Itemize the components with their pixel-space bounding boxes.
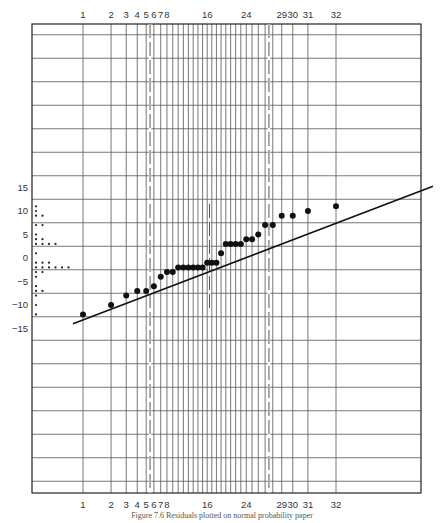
dot (35, 233, 37, 235)
dot (35, 252, 37, 254)
dot (54, 266, 56, 268)
x-tick-bottom: 4 (135, 499, 140, 510)
dot (35, 271, 37, 273)
data-point (218, 250, 224, 256)
dot (41, 290, 43, 292)
data-point (143, 288, 149, 294)
data-point (333, 203, 339, 209)
normal-probability-plot: 1122334455667788161624242929303031313232… (0, 0, 443, 523)
dot (61, 266, 63, 268)
data-point (249, 236, 255, 242)
dot (35, 243, 37, 245)
x-tick-top: 32 (331, 9, 342, 20)
x-tick-top: 1 (80, 9, 85, 20)
dot (41, 238, 43, 240)
dot (35, 238, 37, 240)
data-point (305, 208, 311, 214)
dot (35, 262, 37, 264)
data-point (262, 222, 268, 228)
dot (35, 304, 37, 306)
x-tick-bottom: 32 (331, 499, 342, 510)
x-tick-bottom: 24 (241, 499, 252, 510)
data-point (158, 274, 164, 280)
x-tick-bottom: 29 (276, 499, 287, 510)
x-tick-bottom: 30 (287, 499, 298, 510)
y-tick: 10 (17, 205, 28, 216)
data-point (243, 236, 249, 242)
data-point (123, 293, 129, 299)
dot (41, 215, 43, 217)
x-tick-bottom: 16 (202, 499, 213, 510)
fitted-line (73, 186, 433, 324)
data-point (255, 232, 261, 238)
data-point (151, 283, 157, 289)
x-tick-top: 24 (241, 9, 252, 20)
y-tick: 0 (23, 252, 28, 263)
x-tick-bottom: 6 (151, 499, 156, 510)
x-tick-bottom: 31 (303, 499, 314, 510)
data-point (175, 264, 181, 270)
dot (41, 262, 43, 264)
y-tick: −10 (12, 299, 28, 310)
data-point (134, 288, 140, 294)
data-point (238, 241, 244, 247)
y-tick: −5 (17, 276, 28, 287)
x-tick-top: 16 (202, 9, 213, 20)
dot (35, 205, 37, 207)
dot (41, 271, 43, 273)
x-tick-top: 30 (287, 9, 298, 20)
y-tick: 5 (23, 229, 28, 240)
dot-diagram (35, 205, 70, 315)
y-tick: 15 (17, 182, 28, 193)
data-point (108, 302, 114, 308)
x-tick-top: 7 (158, 9, 163, 20)
x-tick-bottom: 5 (144, 499, 149, 510)
dot (67, 266, 69, 268)
x-tick-top: 6 (151, 9, 156, 20)
dot (54, 243, 56, 245)
dot (48, 243, 50, 245)
x-tick-top: 8 (164, 9, 169, 20)
x-tick-bottom: 7 (158, 499, 163, 510)
data-point (213, 260, 219, 266)
dot (35, 313, 37, 315)
x-tick-bottom: 2 (108, 499, 113, 510)
x-tick-top: 2 (108, 9, 113, 20)
data-point (233, 241, 239, 247)
x-tick-top: 5 (144, 9, 149, 20)
dot (35, 285, 37, 287)
x-tick-bottom: 3 (124, 499, 129, 510)
dot (41, 243, 43, 245)
data-point (200, 264, 206, 270)
y-tick-labels: 151050−5−10−15 (12, 182, 28, 334)
data-point (164, 269, 170, 275)
data-point (270, 222, 276, 228)
x-tick-labels: 1122334455667788161624242929303031313232 (80, 9, 341, 510)
dot (41, 224, 43, 226)
dot (35, 290, 37, 292)
dot (35, 266, 37, 268)
dot (35, 295, 37, 297)
data-point (80, 311, 86, 317)
dot (35, 215, 37, 217)
dot (48, 266, 50, 268)
y-tick: −15 (12, 323, 28, 334)
data-point (170, 269, 176, 275)
x-tick-top: 29 (276, 9, 287, 20)
x-tick-bottom: 8 (164, 499, 169, 510)
dot (35, 276, 37, 278)
x-tick-top: 3 (124, 9, 129, 20)
x-tick-top: 4 (135, 9, 140, 20)
dot (48, 262, 50, 264)
plot-frame (32, 24, 421, 493)
x-tick-top: 31 (303, 9, 314, 20)
dot (35, 224, 37, 226)
data-point (290, 213, 296, 219)
x-tick-bottom: 1 (80, 499, 85, 510)
data-point (279, 213, 285, 219)
dot (41, 266, 43, 268)
figure-caption: Figure 7.6 Residuals plotted on normal p… (131, 511, 313, 520)
grid (32, 24, 421, 493)
dot (35, 210, 37, 212)
